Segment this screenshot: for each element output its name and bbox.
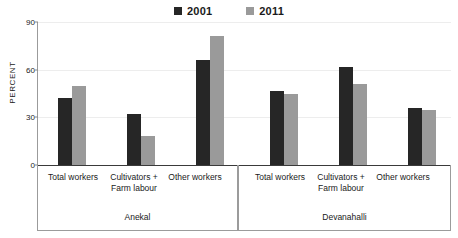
legend-item-2011: 2011 bbox=[246, 6, 284, 17]
bar-2001-4 bbox=[339, 67, 353, 166]
bars-layer bbox=[38, 22, 451, 165]
y-tick-label-60: 60 bbox=[26, 65, 38, 74]
bar-2011-3 bbox=[284, 94, 298, 165]
legend-label-2011: 2011 bbox=[259, 6, 284, 17]
bar-2011-2 bbox=[210, 36, 224, 165]
bar-2011-5 bbox=[422, 110, 436, 165]
bar-2001-5 bbox=[408, 108, 422, 165]
bar-chart: 2001 2011 PERCENT 90 60 30 0 Total worke… bbox=[0, 0, 458, 238]
bar-2001-0 bbox=[58, 98, 72, 165]
legend-item-2001: 2001 bbox=[174, 6, 212, 17]
chart-legend: 2001 2011 bbox=[0, 3, 458, 19]
bar-2001-3 bbox=[270, 91, 284, 165]
y-tick-label-90: 90 bbox=[26, 18, 38, 27]
bar-2011-1 bbox=[141, 136, 155, 165]
bar-2011-4 bbox=[353, 84, 367, 165]
bar-2001-1 bbox=[127, 114, 141, 165]
group-label-devanahalli: Devanahalli bbox=[238, 212, 451, 222]
legend-swatch-2001 bbox=[174, 7, 182, 15]
plot-area: 90 60 30 0 bbox=[37, 22, 451, 165]
legend-swatch-2011 bbox=[246, 7, 254, 15]
bar-2011-0 bbox=[72, 86, 86, 165]
group-label-anekal: Anekal bbox=[37, 212, 238, 222]
bar-2001-2 bbox=[196, 60, 210, 165]
legend-label-2001: 2001 bbox=[187, 6, 212, 17]
y-axis-title: PERCENT bbox=[8, 53, 17, 113]
y-tick-label-30: 30 bbox=[26, 113, 38, 122]
